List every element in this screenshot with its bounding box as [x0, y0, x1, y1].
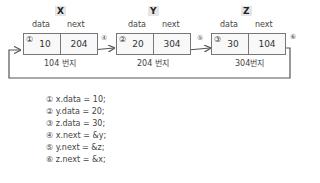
node-y: ② 20 304: [116, 33, 191, 55]
node-x: ① 10 204: [23, 33, 98, 55]
node-z-data-header: data: [220, 20, 238, 29]
node-y-next-cell: 304: [154, 34, 190, 54]
node-x-address: 104 번지: [44, 57, 76, 68]
code-line: ① x.data = 10;: [46, 94, 106, 106]
node-y-data-cell: ② 20: [117, 34, 154, 54]
step-marker: ③: [214, 36, 221, 44]
arrow-marker-5: ⑤: [197, 34, 203, 42]
code-line: ⑤ y.next = &z;: [46, 142, 106, 154]
step-marker: ①: [26, 36, 33, 44]
node-x-data-value: 10: [39, 39, 50, 49]
node-z-next-value: 104: [258, 39, 275, 49]
arrow-marker-6: ⑥: [290, 33, 296, 41]
node-y-label: Y: [148, 6, 159, 16]
code-listing: ① x.data = 10; ② y.data = 20; ③ z.data =…: [46, 94, 106, 166]
code-line: ② y.data = 20;: [46, 106, 106, 118]
code-line: ④ x.next = &y;: [46, 130, 106, 142]
node-y-next-header: next: [162, 20, 180, 29]
node-z-data-cell: ③ 30: [212, 34, 249, 54]
arrow-marker-4: ④: [101, 34, 107, 42]
node-z-data-value: 30: [227, 39, 238, 49]
node-z-address: 304번지: [235, 57, 264, 68]
node-y-data-header: data: [128, 20, 146, 29]
node-z-next-header: next: [255, 20, 273, 29]
node-x-data-header: data: [32, 20, 50, 29]
code-line: ③ z.data = 30;: [46, 118, 106, 130]
node-x-next-value: 204: [70, 39, 87, 49]
node-y-next-value: 304: [163, 39, 180, 49]
node-x-next-header: next: [67, 20, 85, 29]
step-marker: ②: [119, 36, 126, 44]
node-z: ③ 30 104: [211, 33, 286, 55]
node-x-data-cell: ① 10: [24, 34, 61, 54]
node-x-next-cell: 204: [61, 34, 97, 54]
node-y-address: 204 번지: [137, 57, 169, 68]
node-x-label: X: [55, 6, 66, 16]
node-y-data-value: 20: [132, 39, 143, 49]
node-z-next-cell: 104: [249, 34, 285, 54]
code-line: ⑥ z.next = &x;: [46, 154, 106, 166]
node-z-label: Z: [241, 6, 252, 16]
